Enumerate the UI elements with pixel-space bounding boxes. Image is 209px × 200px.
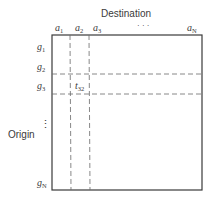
row-label-g2: g2 bbox=[37, 62, 45, 74]
column-label-a1: a1 bbox=[55, 23, 63, 35]
origin-title: Origin bbox=[8, 130, 35, 140]
cell-label-t32: t32 bbox=[75, 81, 84, 93]
row-label-gN: gN bbox=[37, 178, 47, 190]
od-matrix-graphic bbox=[0, 0, 209, 200]
column-label-aN: aN bbox=[187, 23, 197, 35]
column-divider-a2-right bbox=[89, 35, 90, 190]
row-label-g1: g1 bbox=[37, 42, 45, 54]
row-ellipsis: ⋮ bbox=[40, 121, 51, 129]
destination-title: Destination bbox=[101, 9, 151, 19]
column-divider-a2-left bbox=[70, 35, 71, 190]
column-ellipsis: · · · bbox=[137, 22, 149, 30]
row-label-g3: g3 bbox=[37, 81, 45, 93]
column-label-a3: a3 bbox=[93, 23, 101, 35]
column-label-a2: a2 bbox=[75, 23, 83, 35]
matrix-border bbox=[52, 35, 202, 190]
